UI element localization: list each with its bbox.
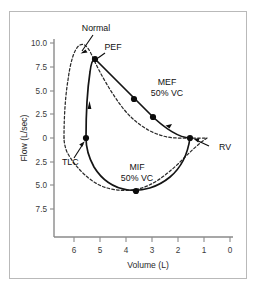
patient-ascending-limb	[86, 59, 95, 138]
x-axis-title: Volume (L)	[127, 260, 169, 270]
y-tick-label-2p5: 2.5	[36, 110, 48, 119]
figure-frame: 10.0 7.5 5.0 2.5 0 2.5 5.0 7.5 6 5	[9, 11, 247, 279]
annotation-mef-line2: 50% VC	[151, 88, 184, 98]
x-tick-label-0: 0	[228, 246, 233, 255]
x-tick-label-3: 3	[150, 246, 155, 255]
marker-mif-50-vc	[133, 188, 139, 194]
x-tick-label-4: 4	[124, 246, 129, 255]
annotation-tlc-label: TLC	[62, 157, 79, 167]
callout-pef	[98, 53, 105, 58]
marker-rv	[187, 135, 193, 141]
y-tick-label-0: 0	[42, 134, 47, 143]
x-axis-ticks: 6 5 4 3 2 1 0	[72, 237, 233, 255]
flow-direction-arrow-up	[88, 101, 92, 109]
y-tick-label-neg2p5: 2.5	[36, 158, 48, 167]
y-tick-label-10: 10.0	[31, 39, 47, 48]
y-tick-label-neg7p5: 7.5	[36, 205, 48, 214]
annotation-mef-line1: MEF	[158, 77, 177, 87]
x-tick-label-6: 6	[72, 246, 77, 255]
x-tick-label-5: 5	[98, 246, 103, 255]
annotation-mif-line2: 50% VC	[121, 173, 154, 183]
y-axis-ticks: 10.0 7.5 5.0 2.5 0 2.5 5.0 7.5	[31, 39, 54, 214]
marker-tlc	[83, 135, 89, 141]
marker-mef-50-vc	[131, 96, 137, 102]
y-tick-label-7p5: 7.5	[36, 63, 48, 72]
y-tick-label-5: 5.0	[36, 87, 48, 96]
annotation-normal-label: Normal	[82, 23, 110, 33]
flow-volume-loop-figure: 10.0 7.5 5.0 2.5 0 2.5 5.0 7.5 6 5	[0, 0, 256, 290]
marker-expiratory-mid	[150, 114, 156, 120]
annotation-pef-label: PEF	[104, 42, 122, 52]
y-tick-label-neg5: 5.0	[36, 181, 48, 190]
x-tick-label-1: 1	[202, 246, 207, 255]
callout-tlc	[74, 141, 85, 158]
annotation-rv-label: RV	[219, 142, 231, 152]
y-axis-title: Flow (L/sec)	[19, 114, 29, 161]
annotation-mif-line1: MIF	[129, 162, 145, 172]
callout-rv	[194, 138, 210, 146]
marker-pef	[92, 56, 98, 62]
x-tick-label-2: 2	[176, 246, 181, 255]
flow-volume-plot: 10.0 7.5 5.0 2.5 0 2.5 5.0 7.5 6 5	[10, 12, 246, 278]
